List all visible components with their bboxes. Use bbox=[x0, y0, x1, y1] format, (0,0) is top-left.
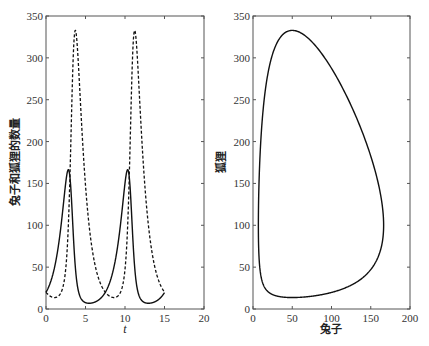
right-plot-frame bbox=[253, 16, 410, 309]
x-tick-label: 20 bbox=[199, 312, 211, 324]
fox-line bbox=[46, 30, 165, 297]
y-tick-label: 50 bbox=[239, 261, 251, 273]
y-tick-label: 100 bbox=[27, 219, 44, 231]
y-tick-label: 350 bbox=[27, 10, 44, 22]
x-tick-label: 200 bbox=[402, 312, 419, 324]
x-tick-label: 15 bbox=[159, 312, 171, 324]
y-tick-label: 300 bbox=[27, 52, 44, 64]
right-y-axis-label: 狐狸 bbox=[214, 151, 228, 173]
y-tick-label: 150 bbox=[234, 177, 251, 189]
y-tick-label: 0 bbox=[38, 303, 44, 315]
right-x-axis-label: 兔子 bbox=[319, 322, 342, 336]
x-tick-label: 0 bbox=[250, 312, 256, 324]
x-tick-label: 50 bbox=[287, 312, 299, 324]
x-tick-label: 5 bbox=[83, 312, 89, 324]
y-tick-label: 0 bbox=[245, 303, 251, 315]
y-tick-label: 250 bbox=[27, 94, 44, 106]
y-tick-label: 300 bbox=[234, 52, 251, 64]
y-tick-label: 200 bbox=[234, 136, 251, 148]
figure: 05101520050100150200250300350 t 兔子和狐狸的数量… bbox=[0, 0, 429, 346]
y-tick-label: 50 bbox=[32, 261, 44, 273]
left-y-axis-label: 兔子和狐狸的数量 bbox=[8, 118, 22, 207]
left-plot-ticks: 05101520050100150200250300350 bbox=[27, 10, 211, 324]
left-plot-frame bbox=[46, 16, 204, 309]
y-tick-label: 350 bbox=[234, 10, 251, 22]
time-series-plot: 05101520050100150200250300350 t 兔子和狐狸的数量 bbox=[8, 10, 210, 336]
y-tick-label: 250 bbox=[234, 94, 251, 106]
y-tick-label: 150 bbox=[27, 177, 44, 189]
x-tick-label: 0 bbox=[43, 312, 49, 324]
y-tick-label: 200 bbox=[27, 136, 44, 148]
rabbit-line bbox=[46, 170, 165, 304]
y-tick-label: 100 bbox=[234, 219, 251, 231]
phase-trajectory-line bbox=[258, 30, 383, 297]
x-tick-label: 150 bbox=[363, 312, 380, 324]
phase-plot: 050100150200050100150200250300350 兔子 狐狸 bbox=[214, 10, 419, 336]
left-x-axis-label: t bbox=[123, 322, 127, 336]
